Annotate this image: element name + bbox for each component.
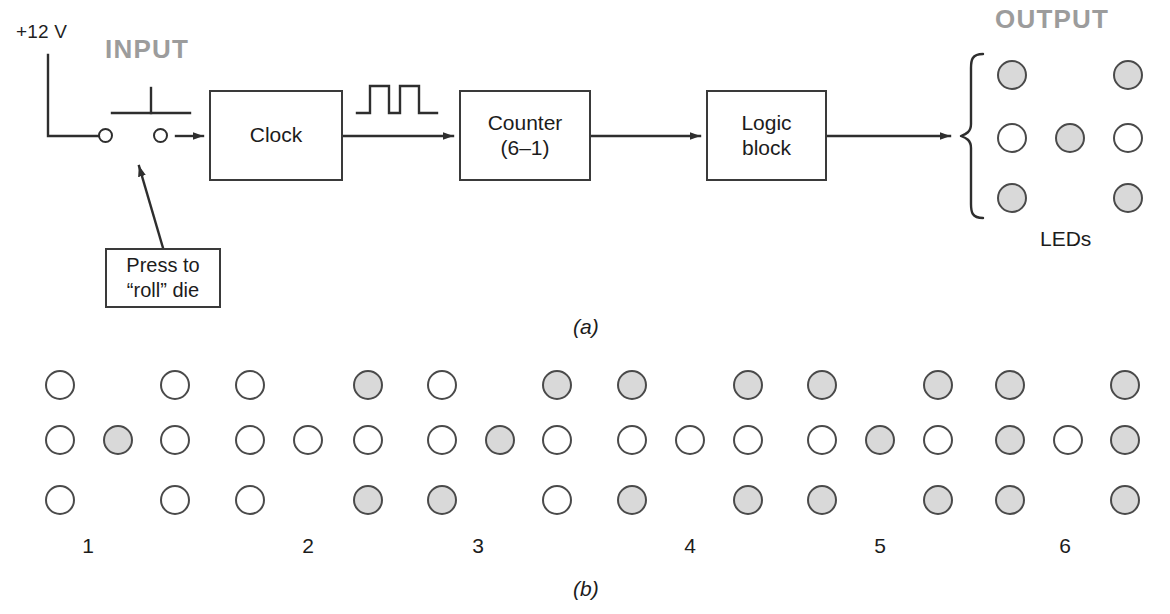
block-clock[interactable]: Clock bbox=[209, 90, 343, 181]
block-logic[interactable]: Logic block bbox=[706, 90, 827, 181]
die-6-pip-center bbox=[1053, 425, 1083, 455]
die-5-pip-center bbox=[865, 425, 895, 455]
led-mid-left bbox=[997, 123, 1027, 153]
die-1-pip-mid-left bbox=[45, 425, 75, 455]
led-mid-center bbox=[1055, 123, 1085, 153]
switch-terminal-left[interactable] bbox=[98, 128, 113, 143]
die-6-pip-mid-left bbox=[995, 425, 1025, 455]
die-4-pip-top-right bbox=[733, 370, 763, 400]
die-4-pip-bottom-right bbox=[733, 485, 763, 515]
die-number-label-1: 1 bbox=[58, 535, 118, 556]
die-number-label-2: 2 bbox=[278, 535, 338, 556]
panel-b-caption: (b) bbox=[573, 578, 599, 599]
die-2-pip-bottom-left bbox=[235, 485, 265, 515]
die-1-pip-bottom-right bbox=[160, 485, 190, 515]
output-section-label: OUTPUT bbox=[995, 6, 1109, 32]
die-5-pip-top-right bbox=[923, 370, 953, 400]
output-brace bbox=[961, 54, 983, 218]
die-1-pip-bottom-left bbox=[45, 485, 75, 515]
die-2-pip-top-left bbox=[235, 370, 265, 400]
led-mid-right bbox=[1113, 123, 1143, 153]
die-3-pip-bottom-left bbox=[427, 485, 457, 515]
die-number-label-6: 6 bbox=[1035, 535, 1095, 556]
block-logic-label: Logic block bbox=[741, 111, 791, 161]
input-section-label: INPUT bbox=[105, 36, 189, 62]
led-top-right bbox=[1113, 60, 1143, 90]
die-6-pip-bottom-left bbox=[995, 485, 1025, 515]
die-3-pip-mid-right bbox=[542, 425, 572, 455]
die-4-pip-top-left bbox=[617, 370, 647, 400]
die-5-pip-top-left bbox=[807, 370, 837, 400]
supply-rail-line bbox=[48, 55, 100, 136]
panel-a-caption: (a) bbox=[573, 316, 599, 337]
die-5-pip-mid-right bbox=[923, 425, 953, 455]
die-4-pip-bottom-left bbox=[617, 485, 647, 515]
die-number-label-5: 5 bbox=[850, 535, 910, 556]
callout-press-to-roll-label: Press to “roll” die bbox=[126, 253, 199, 303]
die-5-pip-bottom-left bbox=[807, 485, 837, 515]
clock-pulse-waveform bbox=[357, 86, 437, 113]
die-4-pip-center bbox=[675, 425, 705, 455]
die-6-pip-top-left bbox=[995, 370, 1025, 400]
die-3-pip-top-right bbox=[542, 370, 572, 400]
leds-caption: LEDs bbox=[1040, 228, 1091, 249]
die-2-pip-top-right bbox=[353, 370, 383, 400]
callout-leader-line bbox=[139, 166, 163, 248]
die-3-pip-mid-left bbox=[427, 425, 457, 455]
die-4-pip-mid-left bbox=[617, 425, 647, 455]
die-number-label-3: 3 bbox=[448, 535, 508, 556]
die-3-pip-center bbox=[485, 425, 515, 455]
die-5-pip-mid-left bbox=[807, 425, 837, 455]
die-1-pip-top-left bbox=[45, 370, 75, 400]
led-bottom-right bbox=[1113, 183, 1143, 213]
led-bottom-left bbox=[997, 183, 1027, 213]
die-1-pip-top-right bbox=[160, 370, 190, 400]
die-1-pip-center bbox=[103, 425, 133, 455]
die-6-pip-top-right bbox=[1110, 370, 1140, 400]
die-1-pip-mid-right bbox=[160, 425, 190, 455]
die-2-pip-mid-left bbox=[235, 425, 265, 455]
callout-press-to-roll: Press to “roll” die bbox=[105, 248, 221, 308]
die-3-pip-top-left bbox=[427, 370, 457, 400]
die-2-pip-mid-right bbox=[353, 425, 383, 455]
block-counter[interactable]: Counter (6–1) bbox=[459, 90, 591, 181]
die-number-label-4: 4 bbox=[660, 535, 720, 556]
switch-terminal-right[interactable] bbox=[153, 128, 168, 143]
die-6-pip-bottom-right bbox=[1110, 485, 1140, 515]
supply-voltage-label: +12 V bbox=[16, 22, 67, 41]
die-2-pip-bottom-right bbox=[353, 485, 383, 515]
die-3-pip-bottom-right bbox=[542, 485, 572, 515]
die-6-pip-mid-right bbox=[1110, 425, 1140, 455]
die-5-pip-bottom-right bbox=[923, 485, 953, 515]
block-clock-label: Clock bbox=[250, 123, 303, 148]
die-2-pip-center bbox=[293, 425, 323, 455]
led-top-left bbox=[997, 60, 1027, 90]
figure-canvas: +12 V INPUT OUTPUT Clock Counter (6–1) L… bbox=[0, 0, 1170, 614]
die-4-pip-mid-right bbox=[733, 425, 763, 455]
block-counter-label: Counter (6–1) bbox=[488, 111, 563, 161]
